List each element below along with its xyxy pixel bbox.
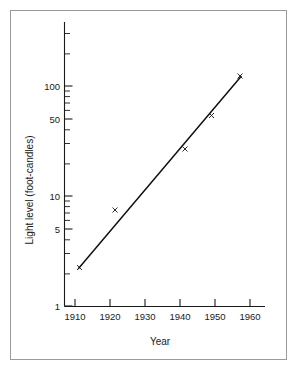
y-tick-label: 1: [55, 301, 60, 312]
x-tick-label: 1910: [64, 311, 85, 322]
y-tick-label: 5: [55, 224, 60, 235]
y-axis-minor-ticks: [65, 34, 71, 274]
data-point-marker: [209, 113, 214, 118]
plot-axes: [65, 22, 266, 307]
data-point-marker: [113, 208, 118, 213]
x-tick-label: 1930: [134, 311, 155, 322]
x-tick-label: 1950: [204, 311, 225, 322]
chart-canvas: 100 50 10 5 1 1910 1920 1930 1940 1950 1…: [0, 0, 300, 374]
x-axis-title: Year: [150, 336, 171, 347]
chart-figure: 100 50 10 5 1 1910 1920 1930 1940 1950 1…: [0, 0, 300, 374]
y-tick-label: 10: [49, 191, 60, 202]
y-tick-label: 50: [49, 114, 60, 125]
x-tick-labels: 1910 1920 1930 1940 1950 1960: [64, 311, 260, 322]
x-axis-ticks: [75, 299, 250, 307]
y-axis-major-ticks: [65, 86, 73, 306]
x-tick-label: 1920: [99, 311, 120, 322]
x-tick-label: 1940: [169, 311, 190, 322]
y-tick-label: 100: [44, 81, 60, 92]
data-point-marker: [77, 265, 82, 270]
y-axis-title: Light level (foot-candles): [24, 136, 35, 245]
data-point-marker: [183, 147, 188, 152]
y-tick-labels: 100 50 10 5 1: [44, 81, 60, 312]
x-tick-label: 1960: [239, 311, 260, 322]
trend-line: [79, 77, 242, 269]
